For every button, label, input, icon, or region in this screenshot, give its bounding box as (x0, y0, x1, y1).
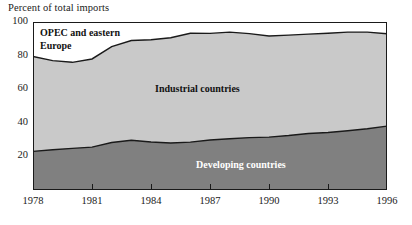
y-axis-title: Percent of total imports (8, 2, 109, 13)
x-tick-label-1987: 1987 (200, 196, 221, 207)
x-tick-mark-1993 (328, 184, 329, 190)
industrial-countries-label: Industrial countries (155, 83, 240, 96)
x-tick-mark-1981 (92, 184, 93, 190)
y-tick-label-80: 80 (0, 50, 28, 61)
y-tick-label-20: 20 (0, 150, 28, 161)
developing-countries-label: Developing countries (196, 159, 286, 172)
x-tick-label-1981: 1981 (82, 196, 103, 207)
x-tick-mark-1987 (210, 184, 211, 190)
x-tick-label-1978: 1978 (23, 196, 44, 207)
y-tick-label-100: 100 (0, 16, 28, 27)
x-tick-label-1990: 1990 (259, 196, 280, 207)
x-tick-label-1993: 1993 (318, 196, 339, 207)
x-tick-label-1996: 1996 (377, 196, 398, 207)
y-tick-label-40: 40 (0, 117, 28, 128)
chart-figure: Percent of total imports 20406080100 197… (0, 0, 412, 225)
opec-eastern-europe-label: OPEC and eastern Europe (40, 27, 120, 52)
x-tick-label-1984: 1984 (141, 196, 162, 207)
x-tick-mark-1984 (151, 184, 152, 190)
y-tick-label-60: 60 (0, 83, 28, 94)
x-tick-mark-1990 (269, 184, 270, 190)
